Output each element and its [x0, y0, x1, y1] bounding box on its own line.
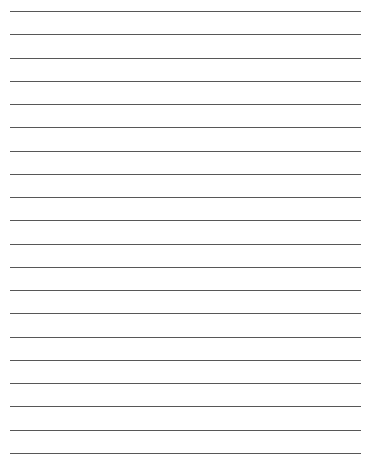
ruled-line	[10, 34, 361, 35]
ruled-line	[10, 197, 361, 198]
ruled-line	[10, 174, 361, 175]
ruled-line	[10, 151, 361, 152]
ruled-line	[10, 337, 361, 338]
ruled-line	[10, 313, 361, 314]
lined-paper-page	[0, 0, 370, 466]
ruled-line	[10, 267, 361, 268]
ruled-line	[10, 383, 361, 384]
ruled-line	[10, 127, 361, 128]
ruled-line	[10, 11, 361, 12]
ruled-line	[10, 244, 361, 245]
ruled-line	[10, 220, 361, 221]
ruled-line	[10, 430, 361, 431]
ruled-line	[10, 453, 361, 454]
ruled-line	[10, 58, 361, 59]
ruled-line	[10, 290, 361, 291]
ruled-line	[10, 104, 361, 105]
ruled-line	[10, 360, 361, 361]
ruled-line	[10, 81, 361, 82]
ruled-line	[10, 406, 361, 407]
